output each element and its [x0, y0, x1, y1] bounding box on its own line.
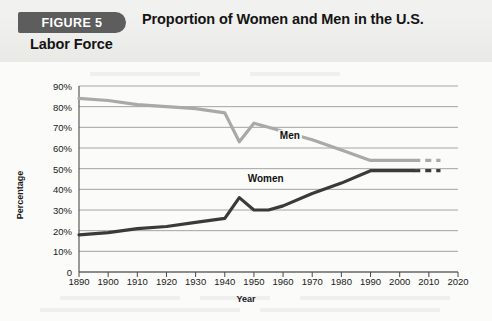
x-tick-label: 2020 [438, 276, 478, 287]
figure-number-label: FIGURE 5 [42, 16, 103, 30]
y-tick-label: 70% [32, 122, 72, 133]
series-label-men: Men [278, 130, 302, 141]
figure-root: FIGURE 5 Proportion of Women and Men in … [0, 0, 492, 321]
figure-header: FIGURE 5 Proportion of Women and Men in … [0, 0, 492, 62]
figure-number-tab: FIGURE 5 [18, 12, 126, 33]
y-tick-label: 30% [32, 205, 72, 216]
series-label-women: Women [246, 173, 286, 184]
y-tick-label: 40% [32, 184, 72, 195]
figure-title-line2: Labor Force [30, 36, 113, 52]
figure-title-line1: Proportion of Women and Men in the U.S. [142, 12, 482, 27]
y-tick-label: 90% [32, 81, 72, 92]
x-axis-tick-labels: 1890190019101920193019401950196019701980… [0, 276, 492, 296]
y-tick-label: 50% [32, 163, 72, 174]
y-tick-label: 20% [32, 225, 72, 236]
y-tick-label: 10% [32, 246, 72, 257]
y-tick-label: 60% [32, 143, 72, 154]
y-axis-title: Percentage [15, 171, 25, 220]
chart-area: Percentage Year 010%20%30%40%50%60%70%80… [0, 62, 492, 321]
y-tick-label: 80% [32, 101, 72, 112]
